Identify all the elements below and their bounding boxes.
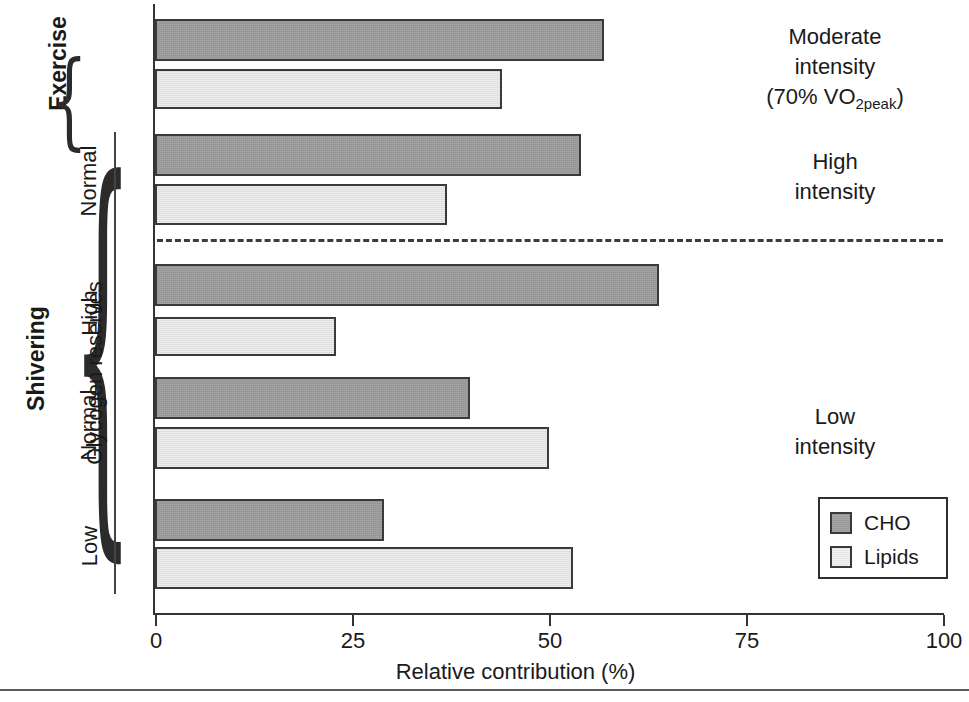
- legend-label-cho: CHO: [864, 511, 911, 535]
- legend-row-cho[interactable]: CHO: [830, 511, 911, 535]
- x-tick-100: [943, 615, 945, 626]
- x-tick-25: [352, 615, 354, 626]
- annotation-moderate-intensity: Moderate intensity (70% VO2peak): [715, 22, 955, 114]
- annotation-moderate-line3: (70% VO2peak): [715, 82, 955, 114]
- x-tick-label-50: 50: [538, 628, 562, 654]
- row-label-glycogen-normal: Normal: [76, 370, 102, 480]
- x-tick-label-25: 25: [341, 628, 365, 654]
- group-label-shivering: Shivering: [23, 289, 50, 429]
- annotation-moderate-line1: Moderate: [715, 22, 955, 52]
- annotation-high-intensity: High intensity: [715, 147, 955, 207]
- annotation-vo2peak-pre: (70% VO: [766, 84, 855, 109]
- annotation-low-intensity: Low intensity: [715, 402, 955, 462]
- glycogen-subgroup-spine: [114, 132, 116, 594]
- exercise-brace: {: [51, 48, 73, 152]
- x-tick-75: [746, 615, 748, 626]
- annotation-low-line2: intensity: [715, 432, 955, 462]
- annotation-high-line2: intensity: [715, 177, 955, 207]
- legend-swatch-lipids-icon: [830, 546, 852, 568]
- row-label-glycogen-high: High: [77, 268, 103, 358]
- annotation-vo2peak-post: ): [896, 84, 903, 109]
- bar-glycogen-normal-lipids: [155, 427, 549, 469]
- bar-exercise-moderate-lipids: [155, 69, 502, 109]
- annotation-moderate-line2: intensity: [715, 52, 955, 82]
- bar-glycogen-normal-cho: [155, 377, 470, 419]
- x-tick-label-75: 75: [735, 628, 759, 654]
- bar-shivering-high-lipids: [155, 184, 447, 225]
- bar-shivering-high-cho: [155, 134, 581, 176]
- annotation-high-line1: High: [715, 147, 955, 177]
- section-divider-dashed: [157, 239, 943, 242]
- bar-glycogen-high-lipids: [155, 317, 336, 356]
- footer-rule: [0, 689, 969, 691]
- bar-exercise-moderate-cho: [155, 19, 604, 61]
- figure-root: Exercise { Shivering { Glycogen reserves…: [0, 0, 969, 702]
- annotation-vo2peak-subscript: 2peak: [856, 95, 897, 112]
- legend-label-lipids: Lipids: [864, 545, 919, 569]
- legend-swatch-cho-icon: [830, 512, 852, 534]
- row-label-glycogen-low: Low: [77, 508, 103, 584]
- annotation-low-line1: Low: [715, 402, 955, 432]
- x-tick-label-0: 0: [150, 628, 162, 654]
- x-tick-0: [155, 615, 157, 626]
- bar-glycogen-high-cho: [155, 264, 659, 306]
- row-label-shivering-normal: Normal: [76, 126, 102, 236]
- legend: CHO Lipids: [818, 497, 948, 579]
- x-tick-label-100: 100: [926, 628, 963, 654]
- bar-glycogen-low-lipids: [155, 547, 573, 589]
- legend-row-lipids[interactable]: Lipids: [830, 545, 919, 569]
- bar-glycogen-low-cho: [155, 499, 384, 541]
- x-tick-50: [549, 615, 551, 626]
- x-axis-title: Relative contribution (%): [0, 659, 969, 685]
